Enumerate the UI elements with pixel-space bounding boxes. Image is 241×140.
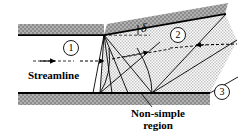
non-simple-region-label: Non-simpleregion bbox=[127, 108, 189, 131]
station-label-3: 3 bbox=[220, 86, 225, 97]
upper-wall-inlet-fill bbox=[18, 24, 104, 35]
station-label-1: 1 bbox=[69, 42, 74, 53]
station-callout-3[interactable]: 3 bbox=[215, 85, 230, 100]
lower-wall-fill bbox=[18, 94, 210, 105]
non-simple-line-2: region bbox=[127, 120, 189, 132]
station-callout-1[interactable]: 1 bbox=[64, 41, 79, 56]
deflection-angle-label: δ bbox=[141, 22, 147, 35]
streamline-label: Streamline bbox=[28, 70, 79, 82]
station-label-2: 2 bbox=[176, 29, 181, 40]
station-callout-2[interactable]: 2 bbox=[171, 28, 186, 43]
upper-wall-inlet bbox=[18, 24, 104, 35]
figure-container: 1 2 3 Streamline δ Non-simpleregion bbox=[0, 0, 241, 140]
non-simple-line-1: Non-simple bbox=[131, 107, 185, 119]
lower-wall bbox=[18, 93, 210, 105]
